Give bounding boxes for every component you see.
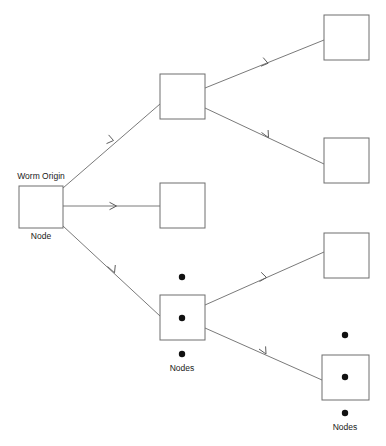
ellipsis-dot-bottom-center (342, 374, 348, 380)
node-box-child-top[interactable] (160, 74, 205, 119)
worm-propagation-diagram: Worm Origin Node Nodes Nodes (0, 0, 386, 446)
node-box-child-middle[interactable] (160, 183, 205, 228)
node-box-leaf-third[interactable] (324, 233, 369, 278)
edge-child-top-to-leaf-top (205, 40, 324, 88)
node-box-root[interactable] (19, 186, 63, 228)
ellipsis-dot-middle-bottom (179, 351, 185, 357)
label-worm-origin: Worm Origin (17, 171, 65, 181)
edge-root-to-child-top (63, 104, 160, 188)
edge-root-to-child-bottom (63, 226, 160, 316)
diagram-canvas: Worm Origin Node Nodes Nodes (0, 0, 386, 446)
ellipsis-dot-middle-top (179, 274, 185, 280)
nodes-layer (19, 15, 369, 400)
node-box-leaf-second[interactable] (324, 138, 369, 183)
label-bottom-nodes: Nodes (333, 422, 358, 432)
label-middle-nodes: Nodes (170, 363, 195, 373)
ellipsis-dot-bottom-top (342, 332, 348, 338)
node-box-leaf-top[interactable] (324, 15, 369, 60)
edge-child-top-to-leaf-second (205, 108, 324, 164)
ellipsis-dot-bottom-bottom (342, 410, 348, 416)
edge-child-bottom-to-leaf-bottom (205, 328, 322, 380)
ellipsis-dot-middle-center (179, 315, 185, 321)
label-root-node: Node (31, 231, 52, 241)
arrowhead-root-to-child-top (107, 135, 114, 144)
